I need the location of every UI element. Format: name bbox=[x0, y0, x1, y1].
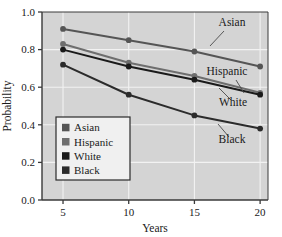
legend-swatch bbox=[62, 124, 70, 132]
series-marker bbox=[192, 77, 198, 83]
legend-item-label: Black bbox=[74, 164, 100, 176]
chart-page: 0.00.20.40.60.81.05101520 AsianHispanicW… bbox=[0, 0, 282, 237]
series-marker bbox=[60, 26, 66, 32]
legend-swatch bbox=[62, 166, 70, 174]
series-marker bbox=[257, 126, 263, 132]
x-axis-tick-label: 5 bbox=[60, 206, 66, 218]
x-axis-tick-label: 10 bbox=[123, 206, 135, 218]
series-marker bbox=[126, 64, 132, 70]
series-marker bbox=[257, 64, 263, 70]
y-axis-tick-label: 1.0 bbox=[21, 6, 35, 18]
annotation-label: Asian bbox=[219, 16, 246, 28]
x-axis-tick-label: 15 bbox=[189, 206, 201, 218]
legend-item-label: White bbox=[74, 150, 101, 162]
y-axis-title: Probability bbox=[1, 80, 14, 131]
annotation-label: White bbox=[219, 96, 247, 108]
y-axis-tick-label: 0.6 bbox=[21, 81, 35, 93]
annotation-label: Hispanic bbox=[207, 65, 248, 78]
y-axis-tick-label: 0.4 bbox=[21, 119, 35, 131]
y-axis-tick-label: 0.0 bbox=[21, 194, 35, 206]
series-marker bbox=[126, 37, 132, 43]
y-axis-tick-label: 0.2 bbox=[21, 156, 35, 168]
series-marker bbox=[60, 62, 66, 68]
legend-item-label: Asian bbox=[74, 121, 100, 133]
x-axis-tick-label: 20 bbox=[255, 206, 267, 218]
y-axis-tick-label: 0.8 bbox=[21, 43, 35, 55]
series-marker bbox=[192, 113, 198, 119]
legend-item-label: Hispanic bbox=[74, 136, 113, 148]
probability-line-chart: 0.00.20.40.60.81.05101520 AsianHispanicW… bbox=[0, 0, 282, 237]
series-marker bbox=[192, 49, 198, 55]
annotation-label: Black bbox=[219, 133, 246, 145]
series-marker bbox=[126, 92, 132, 98]
series-marker bbox=[60, 47, 66, 53]
series-marker bbox=[60, 41, 66, 47]
legend: AsianHispanicWhiteBlack bbox=[56, 117, 130, 180]
legend-swatch bbox=[62, 138, 70, 146]
legend-swatch bbox=[62, 152, 70, 160]
series-marker bbox=[257, 92, 263, 98]
x-axis-title: Years bbox=[142, 222, 168, 234]
